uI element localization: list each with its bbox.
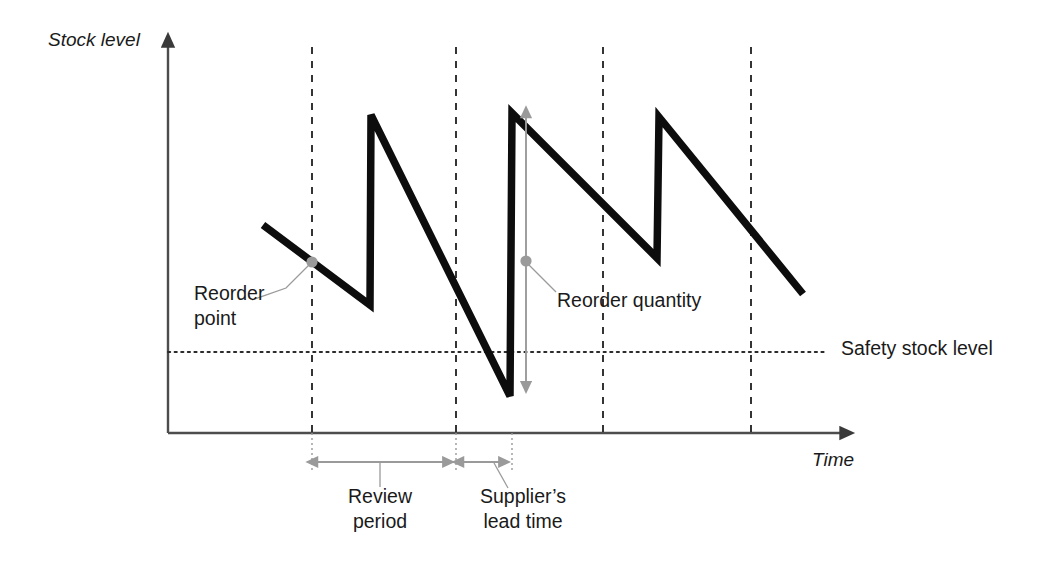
- measure-tick-extensions: [312, 433, 512, 472]
- suppliers-lead-time-label-line1: Supplier’s: [463, 485, 583, 508]
- reorder-quantity-marker: [520, 255, 531, 266]
- leader-reorder-quantity: [528, 264, 556, 292]
- review-period-label-line1: Review: [320, 485, 440, 508]
- reorder-point-marker: [306, 256, 317, 267]
- x-axis-label: Time: [812, 449, 854, 471]
- suppliers-lead-time-label-line2: lead time: [463, 510, 583, 533]
- reorder-point-label-line1: Reorder: [194, 282, 264, 305]
- reorder-point-label-line2: point: [194, 307, 236, 330]
- review-period-gridlines: [312, 47, 751, 433]
- stock-level-curve: [263, 113, 803, 396]
- review-period-label-line2: period: [320, 510, 440, 533]
- reorder-quantity-label: Reorder quantity: [557, 289, 701, 312]
- y-axis-label: Stock level: [48, 29, 140, 51]
- stock-level-chart: [0, 0, 1042, 565]
- inventory-stock-level-figure: Stock level Time Reorder point Reorder q…: [0, 0, 1042, 565]
- safety-stock-level-label: Safety stock level: [841, 337, 993, 360]
